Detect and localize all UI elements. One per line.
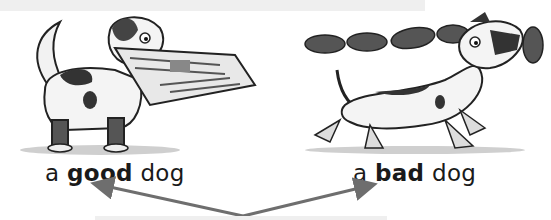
pointer-arrows	[0, 0, 551, 220]
arrow-to-bad	[243, 185, 372, 216]
bottom-gray-bar	[95, 216, 387, 220]
arrow-to-good	[96, 184, 243, 216]
